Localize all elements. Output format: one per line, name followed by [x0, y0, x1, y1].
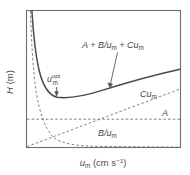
equation-part-a: A + B/u [81, 40, 111, 50]
term-cum-label: Cum [140, 89, 157, 100]
x-axis-label-units: (cm s [90, 157, 116, 168]
van-deemter-figure: H (m) um (cm s−1) A + B/um + Cum uopt m … [0, 0, 190, 175]
term-bum-label-subscript: m [112, 132, 117, 139]
equation-subscript-2: m [139, 44, 144, 51]
equation-label: A + B/um + Cum [81, 40, 144, 51]
optimum-label-subscript: m [53, 79, 58, 86]
optimum-label: uopt m [47, 72, 61, 86]
svg-text:H (m): H (m) [4, 70, 15, 94]
term-bum-label: B/um [98, 128, 117, 139]
term-cum-label-symbol: Cu [140, 89, 152, 99]
y-axis-label: H (m) [4, 70, 15, 94]
term-cum-label-subscript: m [152, 93, 157, 100]
x-axis-label-close: ) [123, 157, 126, 168]
plot-canvas: H (m) um (cm s−1) A + B/um + Cum uopt m … [0, 0, 190, 175]
y-axis-label-units: (m) [4, 70, 15, 87]
equation-pointer-line [110, 53, 117, 85]
equation-part-b: + Cu [117, 40, 139, 50]
x-axis-label: um (cm s−1) [80, 157, 127, 170]
term-a-label: A [161, 108, 168, 118]
term-bum-label-symbol: B/u [98, 128, 112, 138]
